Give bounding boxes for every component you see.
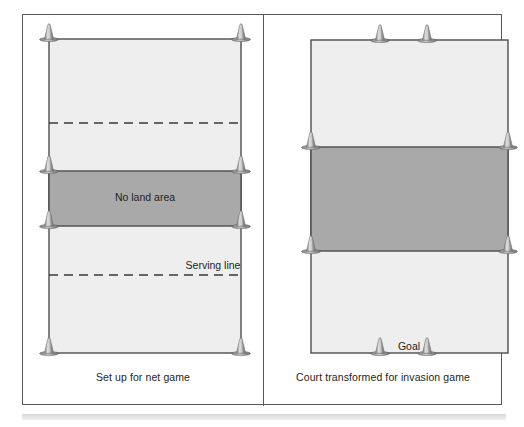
invasion-game-court-graphic: Goal <box>263 15 503 406</box>
panel-net-game: No land area Serving line Set up for net… <box>23 15 263 406</box>
panel-invasion-game: Goal Court transformed for invasion game <box>263 15 503 406</box>
central-zone-band <box>311 147 508 251</box>
goal-label: Goal <box>398 340 420 352</box>
serving-line-label: Serving line <box>186 259 241 271</box>
cone-top-left <box>40 24 59 42</box>
cone-top-right <box>232 24 251 42</box>
cone-goal-top-left <box>371 25 390 43</box>
figure-outer-frame: No land area Serving line Set up for net… <box>22 14 502 405</box>
net-game-court-graphic: No land area Serving line <box>23 15 263 406</box>
no-land-area-label: No land area <box>115 191 175 203</box>
page-bottom-band <box>22 414 506 420</box>
caption-net-game: Set up for net game <box>23 371 263 383</box>
cone-goal-top-right <box>418 25 437 43</box>
court-diagram-figure: No land area Serving line Set up for net… <box>0 0 524 427</box>
caption-invasion-game: Court transformed for invasion game <box>263 371 503 383</box>
